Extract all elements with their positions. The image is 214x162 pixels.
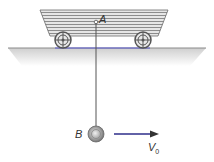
pendulum-ball xyxy=(88,126,104,142)
ground-shade xyxy=(8,48,206,66)
ground xyxy=(8,48,206,66)
velocity-subscript: 0 xyxy=(155,148,159,155)
label-b: B xyxy=(75,129,82,140)
pendulum-cart-diagram xyxy=(0,0,214,162)
label-velocity: V0 xyxy=(148,142,159,155)
velocity-arrow-icon xyxy=(114,131,159,138)
label-a: A xyxy=(99,14,106,25)
right-wheel-icon xyxy=(135,32,151,48)
left-wheel-icon xyxy=(55,32,71,48)
